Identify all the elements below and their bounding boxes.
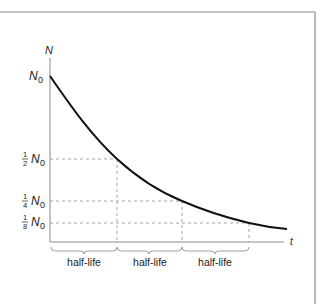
tick-label-half-n0: 1 2 N 0 <box>22 150 45 168</box>
tick-label-eighth-n0: 1 8 N 0 <box>22 213 45 231</box>
svg-text:4: 4 <box>23 201 27 210</box>
svg-text:N: N <box>31 194 40 208</box>
dashed-guides <box>50 159 249 242</box>
svg-text:1: 1 <box>23 150 27 159</box>
svg-text:0: 0 <box>40 221 45 231</box>
half-life-braces <box>51 247 249 254</box>
tick-label-quarter-n0: 1 4 N 0 <box>22 192 45 210</box>
interval-label-1: half-life <box>67 256 101 268</box>
svg-text:0: 0 <box>40 158 45 168</box>
decay-curve <box>50 76 287 229</box>
svg-text:1: 1 <box>23 192 27 201</box>
y-axis-label: N <box>45 44 53 56</box>
tick-label-n0: N 0 <box>29 69 43 85</box>
svg-text:8: 8 <box>23 222 27 231</box>
svg-text:1: 1 <box>23 213 27 222</box>
svg-text:2: 2 <box>23 159 27 168</box>
half-life-decay-chart: N t N 0 1 2 N 0 1 4 N 0 1 8 N 0 half-lif… <box>0 0 329 304</box>
svg-text:N: N <box>29 69 38 83</box>
svg-text:N: N <box>31 215 40 229</box>
x-axis-label: t <box>290 236 294 247</box>
svg-text:0: 0 <box>40 200 45 210</box>
svg-text:N: N <box>31 152 40 166</box>
svg-text:0: 0 <box>38 75 43 85</box>
interval-label-3: half-life <box>198 256 232 268</box>
interval-label-2: half-life <box>133 256 167 268</box>
